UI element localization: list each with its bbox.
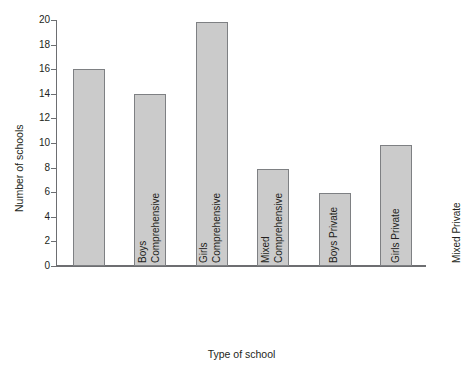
y-axis-tick-label: 20 xyxy=(24,15,50,25)
x-axis-tick-cell: Girls Private xyxy=(303,266,365,344)
x-axis-title: Type of school xyxy=(57,348,426,360)
y-axis-tick-mark xyxy=(51,241,57,242)
bar xyxy=(73,69,105,266)
y-axis-tick-label: 14 xyxy=(24,89,50,99)
x-axis-tick-cell: Boys Comprehensive xyxy=(57,266,119,344)
x-axis-tick-label: Mixed Comprehensive xyxy=(242,188,304,266)
y-axis-tick-mark xyxy=(51,143,57,144)
y-axis-tick-label: 12 xyxy=(24,113,50,123)
y-axis-tick-label: 0 xyxy=(24,261,50,271)
x-axis-tick-label: Girls Comprehensive xyxy=(180,188,242,266)
y-axis-tick-label: 6 xyxy=(24,187,50,197)
y-axis-tick-label: 4 xyxy=(24,212,50,222)
x-axis-tick-cell: Mixed Comprehensive xyxy=(180,266,242,344)
y-axis-tick-mark xyxy=(51,94,57,95)
y-axis-tick-mark xyxy=(51,168,57,169)
x-axis-tick-label: Mixed Private xyxy=(426,188,465,266)
y-axis-tick-mark xyxy=(51,118,57,119)
x-axis-tick-label: Boys Comprehensive xyxy=(119,188,181,266)
y-axis-tick-mark xyxy=(51,192,57,193)
y-axis-tick-label: 10 xyxy=(24,138,50,148)
y-axis-tick-mark xyxy=(51,69,57,70)
chart-title xyxy=(0,0,435,4)
y-axis-tick-label: 16 xyxy=(24,64,50,74)
y-axis-tick-label: 2 xyxy=(24,236,50,246)
x-axis-tick-cell: Boys Private xyxy=(242,266,304,344)
y-axis-tick-mark xyxy=(51,45,57,46)
x-axis-tick-cell: Mixed Private xyxy=(365,266,427,344)
x-axis-tick-label: Girls Private xyxy=(365,188,427,266)
y-axis-tick-mark xyxy=(51,217,57,218)
x-axis-tick-labels: Boys ComprehensiveGirls ComprehensiveMix… xyxy=(57,266,426,346)
y-axis-tick-mark xyxy=(51,20,57,21)
y-axis-tick-labels: 02468101214161820 xyxy=(24,0,50,374)
y-axis-tick-label: 18 xyxy=(24,40,50,50)
x-axis-tick-label: Boys Private xyxy=(303,188,365,266)
y-axis-tick-mark xyxy=(51,266,57,267)
x-axis-tick-cell: Girls Comprehensive xyxy=(119,266,181,344)
y-axis-tick-label: 8 xyxy=(24,163,50,173)
